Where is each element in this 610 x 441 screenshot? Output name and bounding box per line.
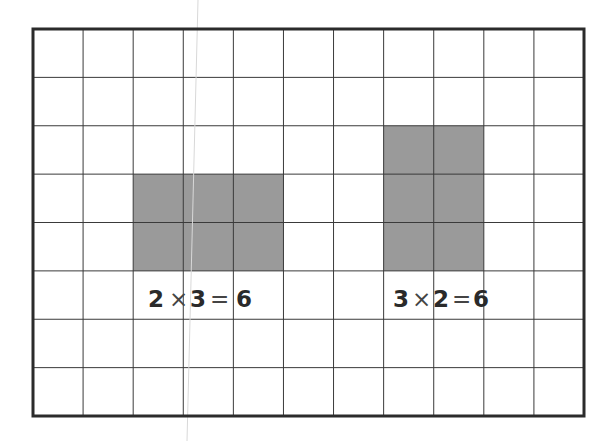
- equation-2x3-number: 3: [190, 288, 206, 311]
- equation-2x3-equals-sign: =: [210, 288, 229, 311]
- multiplication-grid-diagram: 2×3=6 3×2=6: [0, 0, 610, 441]
- equation-3x2-number: 2: [433, 288, 449, 311]
- equation-2x3-number: 2: [148, 288, 164, 311]
- shaded-arrays: [133, 126, 484, 271]
- grid-lines: [33, 29, 584, 416]
- equation-3x2-equals-sign: =: [452, 288, 471, 311]
- grid-canvas: [0, 0, 610, 441]
- equation-3x2-number: 6: [473, 288, 489, 311]
- equation-3x2-times-sign: ×: [412, 288, 431, 311]
- equation-2x3-number: 6: [236, 288, 252, 311]
- equation-3x2-number: 3: [393, 288, 409, 311]
- equation-2x3-times-sign: ×: [169, 288, 188, 311]
